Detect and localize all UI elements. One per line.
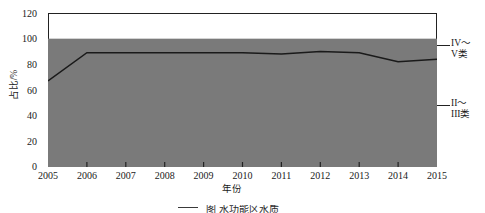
callout-lower-line2: III类 <box>451 109 471 120</box>
x-tick-label-2007: 2007 <box>106 170 146 181</box>
callout-lower-line1: II～ <box>451 98 471 109</box>
callout-label-lower: II～ III类 <box>451 98 471 119</box>
plot-canvas <box>48 13 437 167</box>
x-tick-label-2013: 2013 <box>339 170 379 181</box>
x-tick-label-2009: 2009 <box>184 170 224 181</box>
y-tick-label-100: 100 <box>11 34 37 44</box>
x-tick-label-2014: 2014 <box>378 170 418 181</box>
x-tick-label-2012: 2012 <box>300 170 340 181</box>
x-tick-label-2008: 2008 <box>145 170 185 181</box>
y-tick-label-80: 80 <box>11 60 37 70</box>
x-tick-label-2015: 2015 <box>417 170 457 181</box>
callout-leader-upper <box>437 45 450 46</box>
y-tick-label-40: 40 <box>11 111 37 121</box>
callout-leader-lower <box>437 105 450 106</box>
x-tick-label-2011: 2011 <box>261 170 301 181</box>
x-tick-label-2006: 2006 <box>67 170 107 181</box>
y-tick-label-60: 60 <box>11 86 37 96</box>
x-tick-label-2005: 2005 <box>28 170 68 181</box>
callout-label-upper: IV～ V类 <box>451 38 471 59</box>
y-tick-label-120: 120 <box>11 9 37 19</box>
x-tick-label-2010: 2010 <box>223 170 263 181</box>
callout-upper-line1: IV～ <box>451 38 471 49</box>
figure-caption-text: 图 水功能区水质 <box>0 205 485 213</box>
chart-figure: 占比/% 120 100 80 60 40 20 0 2005 2006 200… <box>0 0 485 213</box>
x-axis-label: 年份 <box>222 181 242 195</box>
figure-caption: 图 水功能区水质 <box>0 205 485 213</box>
callout-upper-line2: V类 <box>451 49 471 60</box>
y-tick-label-20: 20 <box>11 137 37 147</box>
